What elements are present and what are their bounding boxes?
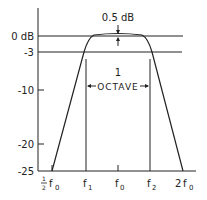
octave-label-top: 1 [115, 67, 121, 78]
x-label-f2: f 2 [147, 178, 156, 192]
x-label-f0: f 0 [115, 178, 124, 192]
x-label-f1: f 1 [83, 178, 92, 192]
svg-text:f: f [147, 178, 151, 189]
y-label-minus3: -3 [24, 47, 34, 58]
y-label-minus10: -10 [18, 85, 34, 96]
svg-text:0: 0 [120, 184, 124, 192]
svg-text:1: 1 [88, 184, 92, 192]
y-label-minus25: -25 [18, 166, 34, 177]
svg-text:f: f [83, 178, 87, 189]
svg-text:f: f [49, 178, 53, 189]
svg-text:2: 2 [175, 178, 181, 189]
svg-text:1: 1 [42, 175, 46, 182]
svg-text:2: 2 [42, 184, 46, 191]
svg-text:2: 2 [152, 184, 156, 192]
svg-text:f: f [183, 178, 187, 189]
response-curve [52, 34, 183, 172]
octave-label-bottom: OCTAVE [97, 82, 139, 92]
svg-text:0: 0 [189, 184, 193, 192]
ripple-label: 0.5 dB [102, 12, 134, 23]
bandpass-response-diagram: 0 dB -3 -10 -20 -25 0.5 dB 1 OCTAVE 1 2 … [0, 0, 207, 200]
x-label-half-f0: 1 2 f 0 [41, 175, 59, 192]
svg-text:f: f [115, 178, 119, 189]
y-label-0db: 0 dB [11, 31, 34, 42]
y-label-minus20: -20 [18, 139, 34, 150]
x-label-2f0: 2 f 0 [175, 178, 193, 192]
svg-text:0: 0 [55, 184, 59, 192]
